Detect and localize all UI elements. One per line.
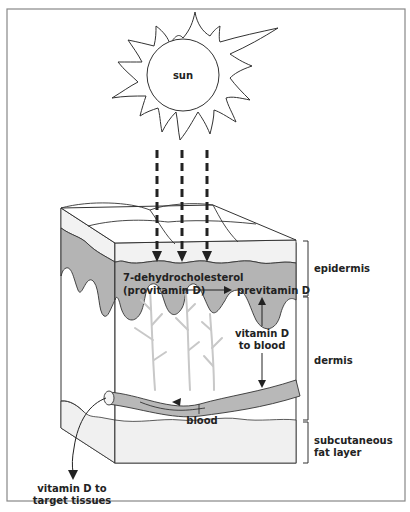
dermis-label: dermis	[314, 355, 353, 366]
target-label-line1: vitamin D to	[37, 483, 106, 494]
skin-block	[61, 208, 115, 463]
blood-label: blood	[186, 415, 217, 426]
subcutaneous-label-line1: subcutaneous	[314, 435, 393, 446]
to-blood-label-line1: vitamin D	[235, 328, 289, 339]
target-label-line2: target tissues	[33, 495, 112, 506]
layer-brackets	[303, 241, 308, 463]
subcutaneous-label-line2: fat layer	[314, 447, 362, 458]
diagram-canvas: sun	[0, 0, 410, 512]
compound-label-line1: 7-dehydrocholesterol	[123, 272, 244, 283]
epidermis-label: epidermis	[314, 263, 370, 274]
target-arrow-icon	[68, 470, 78, 480]
previtamin-label: previtamin D	[237, 285, 310, 296]
sun-icon	[112, 12, 278, 140]
sun-label: sun	[173, 70, 193, 81]
to-blood-label-line2: to blood	[239, 340, 286, 351]
